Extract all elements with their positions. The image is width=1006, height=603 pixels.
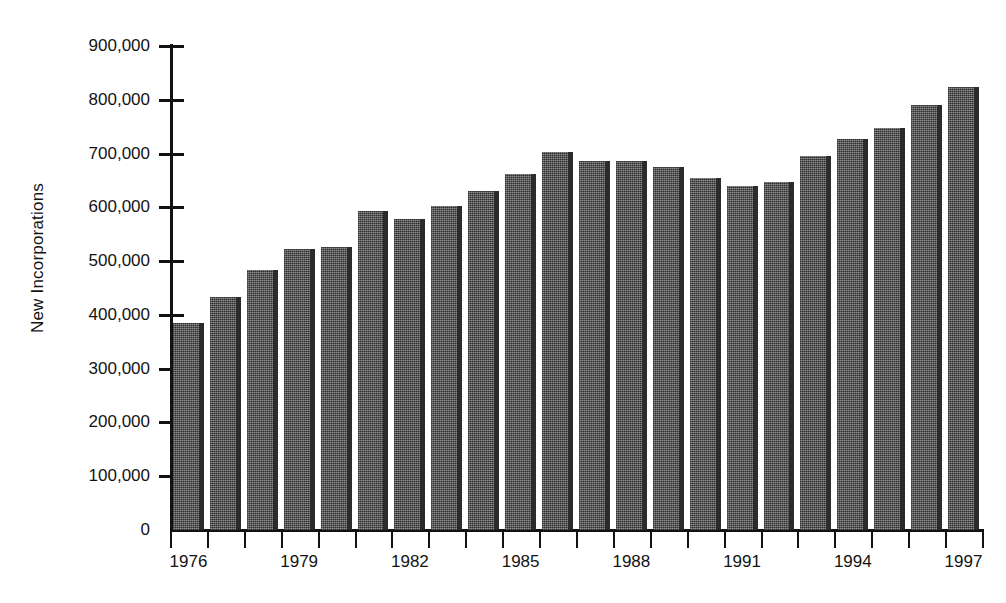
- bar: [874, 128, 905, 530]
- y-axis-tick-label: 100,000: [40, 467, 150, 484]
- x-axis-tick: [724, 531, 726, 548]
- x-axis-tick: [834, 531, 836, 548]
- y-axis-tick-label: 700,000: [40, 145, 150, 162]
- bar: [800, 156, 831, 530]
- bar: [911, 105, 942, 530]
- bar: [431, 206, 462, 530]
- x-axis-tick-label: 1991: [702, 552, 782, 571]
- y-axis-tick-label: 600,000: [40, 198, 150, 215]
- bar: [468, 191, 499, 530]
- bar: [727, 186, 758, 530]
- y-axis-tick-label: 200,000: [40, 413, 150, 430]
- y-axis-tick-label: 300,000: [40, 360, 150, 377]
- bar: [321, 247, 352, 530]
- plot-area: [172, 46, 984, 530]
- bar: [210, 297, 241, 530]
- bar-chart: New Incorporations 0100,000200,000300,00…: [0, 0, 1006, 603]
- x-axis-tick: [539, 531, 541, 548]
- y-axis-tick-label: 900,000: [40, 37, 150, 54]
- x-axis-tick: [871, 531, 873, 548]
- x-axis-tick: [318, 531, 320, 548]
- x-axis-tick: [281, 531, 283, 548]
- bar: [764, 182, 795, 530]
- bar: [284, 249, 315, 530]
- bar: [579, 161, 610, 530]
- x-axis-tick: [650, 531, 652, 548]
- x-axis-tick-label: 1979: [259, 552, 339, 571]
- y-axis-tick-label: 0: [40, 521, 150, 538]
- x-axis-tick: [465, 531, 467, 548]
- bar: [247, 270, 278, 530]
- x-axis-tick-label: 1997: [924, 552, 1004, 571]
- x-axis-tick: [428, 531, 430, 548]
- bar: [542, 152, 573, 530]
- bar: [948, 87, 979, 530]
- bar: [653, 167, 684, 530]
- bar: [394, 219, 425, 530]
- x-axis-tick: [908, 531, 910, 548]
- x-axis-tick: [945, 531, 947, 548]
- x-axis-tick: [207, 531, 209, 548]
- x-axis-tick: [355, 531, 357, 548]
- bar: [505, 174, 536, 530]
- x-axis-tick: [576, 531, 578, 548]
- bar: [173, 323, 204, 530]
- x-axis-tick: [982, 531, 984, 548]
- bar: [358, 211, 389, 530]
- x-axis-tick-label: 1994: [813, 552, 893, 571]
- x-axis-tick: [761, 531, 763, 548]
- x-axis-tick: [613, 531, 615, 548]
- bar: [616, 161, 647, 530]
- x-axis-tick-label: 1988: [591, 552, 671, 571]
- y-axis-tick-label: 400,000: [40, 306, 150, 323]
- x-axis-tick: [502, 531, 504, 548]
- x-axis-tick: [687, 531, 689, 548]
- x-axis-tick-label: 1982: [370, 552, 450, 571]
- x-axis-tick: [797, 531, 799, 548]
- x-axis-tick: [244, 531, 246, 548]
- bar: [837, 139, 868, 530]
- y-axis-tick-label: 500,000: [40, 252, 150, 269]
- x-axis-tick-label: 1985: [481, 552, 561, 571]
- bar: [690, 178, 721, 530]
- x-axis-tick: [170, 531, 172, 548]
- x-axis-tick-label: 1976: [148, 552, 228, 571]
- y-axis-tick-label: 800,000: [40, 91, 150, 108]
- x-axis-tick: [391, 531, 393, 548]
